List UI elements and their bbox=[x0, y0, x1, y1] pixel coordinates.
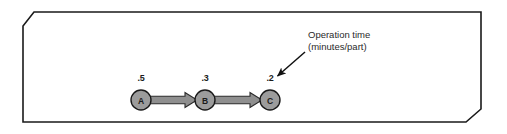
process-flow-figure: .5 .3 .2 A B C Operation time (minutes/p… bbox=[0, 0, 507, 134]
callout-line-1: Operation time bbox=[308, 29, 370, 42]
callout-leader-arrow bbox=[278, 52, 306, 76]
operation-time-label-c: .2 bbox=[266, 73, 273, 83]
callout-line-2: (minutes/part) bbox=[308, 41, 367, 54]
operation-time-label-a: .5 bbox=[137, 73, 144, 83]
operation-time-label-b: .3 bbox=[201, 73, 208, 83]
callout-arrow-layer bbox=[0, 0, 507, 134]
